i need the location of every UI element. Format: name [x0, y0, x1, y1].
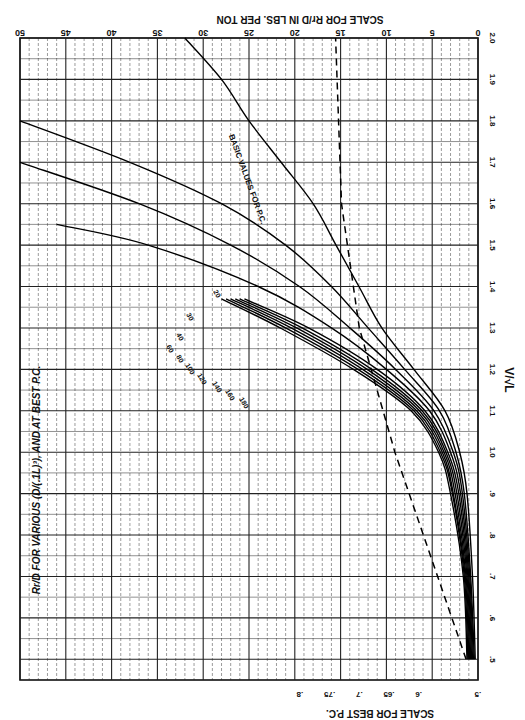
bottom-tick-label: .5 — [474, 690, 481, 699]
top-axis-label: SCALE FOR Rr/D IN LBS. PER TON — [216, 14, 383, 25]
right-tick-label: 1.7 — [488, 157, 497, 169]
curve-80 — [244, 299, 471, 659]
top-tick-label: 5 — [430, 28, 435, 38]
grid — [20, 38, 478, 680]
curve-label: 40 — [175, 332, 185, 342]
x-axis-label: V/√L — [502, 367, 516, 392]
bottom-tick-label: .7 — [355, 690, 362, 699]
top-tick-label: 50 — [15, 28, 25, 38]
bottom-tick-label: .6 — [415, 690, 422, 699]
top-tick-label: 25 — [244, 28, 254, 38]
curve-label: 60 — [165, 344, 175, 354]
right-tick-label: .9 — [488, 490, 497, 497]
curve-100 — [240, 299, 471, 659]
right-tick-label: 1.1 — [488, 405, 497, 417]
top-tick-label: 45 — [61, 28, 71, 38]
chart-title: Rr/D FOR VARIOUS (D/(.1L)³), AND AT BEST… — [31, 366, 42, 595]
right-tick-label: 1.8 — [488, 115, 497, 127]
right-tick-label: .7 — [488, 573, 497, 580]
curve-label: 120 — [196, 372, 208, 386]
right-tick-label: 1.9 — [488, 74, 497, 86]
top-tick-label: 0 — [475, 28, 480, 38]
top-tick-label: 20 — [290, 28, 300, 38]
curve-label: 180 — [238, 396, 250, 410]
curve-60 — [57, 224, 473, 659]
bottom-tick-label: .65 — [383, 690, 395, 699]
labels: 50454035302520151050SCALE FOR Rr/D IN LB… — [15, 14, 516, 719]
right-tick-label: 1.3 — [488, 322, 497, 334]
top-tick-label: 15 — [336, 28, 346, 38]
right-tick-label: 1.4 — [488, 281, 497, 293]
chart-svg: 50454035302520151050SCALE FOR Rr/D IN LB… — [0, 0, 525, 720]
bottom-tick-label: .75 — [324, 690, 336, 699]
curve-label: 30 — [185, 312, 195, 322]
right-tick-label: 2.0 — [488, 32, 497, 44]
chart-figure: 50454035302520151050SCALE FOR Rr/D IN LB… — [0, 0, 525, 720]
right-tick-label: 1.2 — [488, 364, 497, 376]
top-tick-label: 10 — [381, 28, 391, 38]
right-tick-label: .6 — [488, 615, 497, 622]
curve-label: 100 — [184, 362, 196, 376]
bottom-axis-label: SCALE FOR BEST P.C. — [326, 708, 434, 719]
right-tick-label: .5 — [488, 656, 497, 663]
bottom-tick-label: .8 — [296, 690, 303, 699]
top-tick-label: 35 — [152, 28, 162, 38]
curve-label: 80 — [175, 354, 185, 364]
top-tick-label: 30 — [198, 28, 208, 38]
right-tick-label: 1.6 — [488, 198, 497, 210]
right-tick-label: 1.0 — [488, 447, 497, 459]
right-tick-label: .8 — [488, 532, 497, 539]
top-tick-label: 40 — [107, 28, 117, 38]
right-tick-label: 1.5 — [488, 240, 497, 252]
curve-label: 140 — [211, 380, 223, 394]
ref-line-label: BASIC VALUES FOR P.C. — [227, 133, 268, 225]
curve-label: 20 — [212, 289, 222, 299]
